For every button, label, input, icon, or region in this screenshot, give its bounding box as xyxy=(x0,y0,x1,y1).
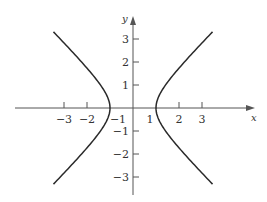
y-tick-label: −1 xyxy=(113,125,129,138)
y-axis-arrow-icon xyxy=(130,16,136,25)
x-axis-label: x xyxy=(251,112,257,123)
y-tick-label: 2 xyxy=(122,56,129,69)
y-tick-label: −3 xyxy=(113,171,129,184)
y-tick-label: −2 xyxy=(113,148,129,161)
x-tick-label: 2 xyxy=(176,113,183,126)
y-tick-label: 3 xyxy=(122,33,129,46)
x-tick-label: −2 xyxy=(79,113,95,126)
x-tick-label: −3 xyxy=(56,113,72,126)
x-tick-label: 3 xyxy=(199,113,206,126)
y-axis-label: y xyxy=(121,13,128,24)
x-ticks: −3−2−1123 xyxy=(56,102,206,126)
x-tick-label: 1 xyxy=(147,113,154,126)
y-tick-label: 1 xyxy=(122,79,129,92)
x-axis-arrow-icon xyxy=(246,105,255,111)
hyperbola-plot: x y −3−2−1123 321−1−2−3 xyxy=(0,0,267,202)
